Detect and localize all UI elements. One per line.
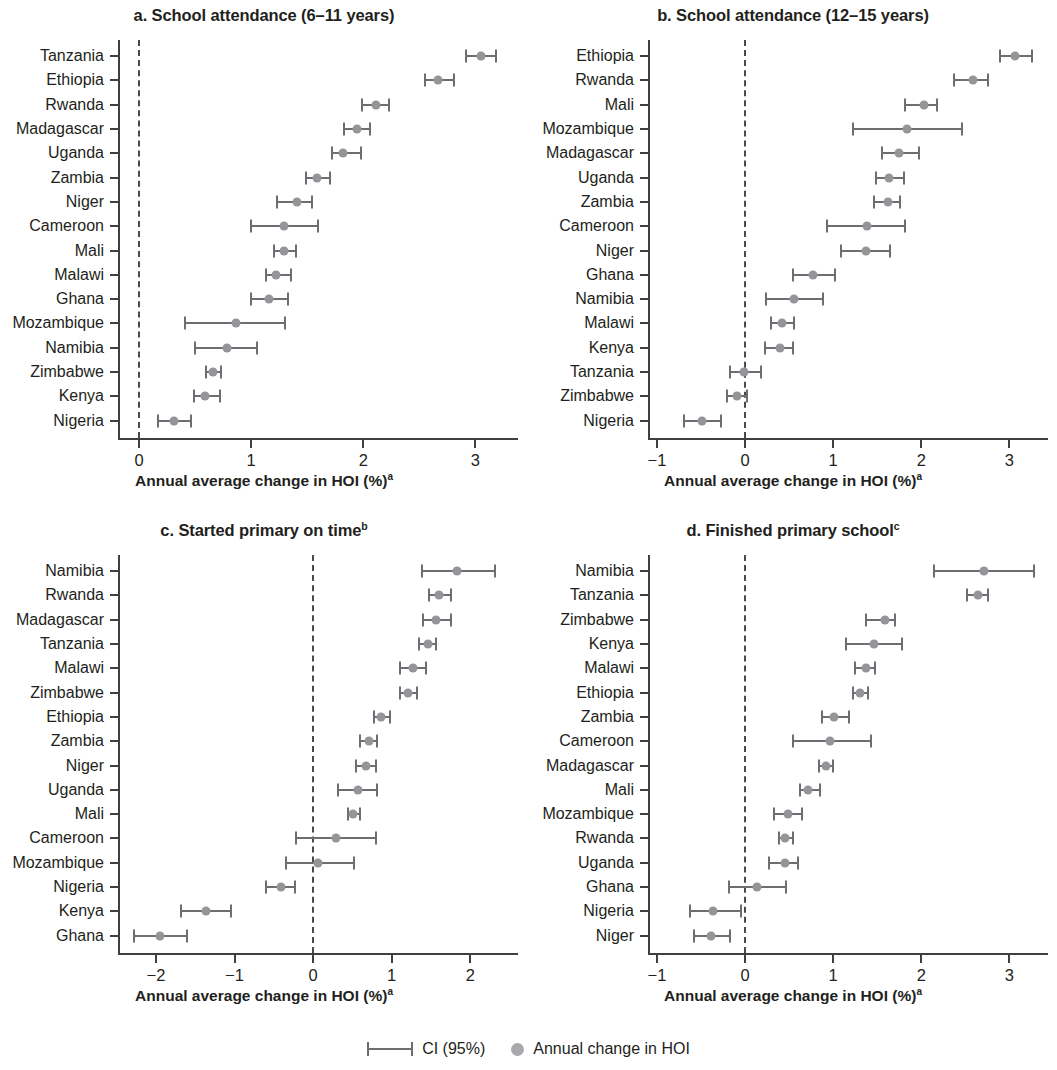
panel-b-plot: EthiopiaRwandaMaliMozambiqueMadagascarUg… [648, 40, 1048, 438]
panel-d-plot: NamibiaTanzaniaZimbabweKenyaMalawiEthiop… [648, 555, 1048, 953]
ci-cap-left [373, 710, 375, 723]
category-label: Malawi [0, 266, 104, 284]
data-point [740, 368, 749, 377]
y-tick-mark [110, 201, 118, 203]
ci-cap-right [376, 783, 378, 796]
data-point [313, 173, 322, 182]
ci-cap-left [904, 98, 906, 111]
y-tick-mark [640, 667, 648, 669]
ci-cap-right [792, 341, 794, 354]
ci-cap-right [901, 638, 903, 651]
x-tick-mark [656, 955, 658, 963]
x-tick-mark [138, 440, 140, 448]
ci-cap-right [359, 808, 361, 821]
ci-cap-left [764, 341, 766, 354]
ci-cap-right [190, 414, 192, 427]
category-label: Cameroon [434, 732, 634, 750]
ci-cap-left [689, 905, 691, 918]
category-label: Ghana [0, 927, 104, 945]
panel-b-axis-title: Annual average change in HOI (%)a [529, 472, 1057, 490]
data-point [222, 343, 231, 352]
ci-cap-right [311, 195, 313, 208]
category-label: Tanzania [0, 635, 104, 653]
category-label: Cameroon [434, 217, 634, 235]
legend-item-ci: CI (95%) [367, 1040, 485, 1058]
ci-cap-left [285, 856, 287, 869]
x-tick-label: 1 [829, 966, 838, 985]
ci-cap-right [867, 686, 869, 699]
category-label: Uganda [0, 144, 104, 162]
ci-cap-right [317, 220, 319, 233]
ci-cap-left [821, 710, 823, 723]
x-tick-mark [362, 440, 364, 448]
ci-cap-left [428, 589, 430, 602]
x-tick-mark [832, 955, 834, 963]
data-point [709, 907, 718, 916]
ci-cap-right [230, 905, 232, 918]
confidence-interval-icon [367, 1042, 413, 1056]
x-tick-label: 3 [1005, 451, 1014, 470]
y-tick-mark [110, 250, 118, 252]
category-label: Kenya [434, 339, 634, 357]
ci-cap-right [256, 341, 258, 354]
ci-cap-left [966, 589, 968, 602]
data-point [265, 295, 274, 304]
x-tick-mark [234, 955, 236, 963]
ci-cap-right [819, 783, 821, 796]
ci-cap-left [826, 220, 828, 233]
category-label: Kenya [434, 635, 634, 653]
x-tick-label: 3 [1005, 966, 1014, 985]
ci-cap-right [729, 929, 731, 942]
y-axis-line [118, 40, 120, 438]
y-tick-mark [110, 420, 118, 422]
data-point [861, 246, 870, 255]
category-label: Zambia [0, 732, 104, 750]
category-label: Uganda [434, 169, 634, 187]
y-tick-mark [640, 789, 648, 791]
category-label: Nigeria [434, 412, 634, 430]
x-axis-line [118, 438, 518, 440]
data-point [403, 688, 412, 697]
data-point [408, 664, 417, 673]
ci-cap-left [792, 268, 794, 281]
ci-cap-left [418, 638, 420, 651]
category-label: Rwanda [0, 96, 104, 114]
x-tick-label: 0 [740, 966, 749, 985]
x-tick-mark [474, 440, 476, 448]
y-tick-mark [640, 177, 648, 179]
x-axis-line [648, 438, 1048, 440]
x-axis-line [118, 953, 518, 955]
y-tick-mark [640, 765, 648, 767]
x-tick-label: −1 [648, 451, 667, 470]
category-label: Tanzania [434, 586, 634, 604]
data-point [777, 319, 786, 328]
data-point [348, 810, 357, 819]
category-label: Niger [434, 927, 634, 945]
x-tick-label: 0 [740, 451, 749, 470]
data-point [156, 931, 165, 940]
x-tick-mark [1008, 440, 1010, 448]
panel-b: b. School attendance (12–15 years) Ethio… [529, 0, 1057, 515]
ci-cap-left [355, 759, 357, 772]
ci-cap-left [881, 147, 883, 160]
ci-cap-right [220, 366, 222, 379]
category-label: Rwanda [434, 829, 634, 847]
ci-cap-left [273, 244, 275, 257]
ci-cap-left [184, 317, 186, 330]
x-tick-mark [832, 440, 834, 448]
ci-cap-left [295, 832, 297, 845]
y-tick-mark [110, 910, 118, 912]
ci-cap-right [740, 905, 742, 918]
category-label: Malawi [0, 659, 104, 677]
category-label: Zambia [434, 708, 634, 726]
ci-cap-left [865, 613, 867, 626]
category-label: Cameroon [0, 829, 104, 847]
panel-d-title: d. Finished primary schoolc [529, 521, 1057, 540]
category-label: Zambia [0, 169, 104, 187]
category-label: Niger [0, 193, 104, 211]
x-tick-label: −1 [225, 966, 244, 985]
ci-cap-left [337, 783, 339, 796]
x-tick-mark [920, 440, 922, 448]
ci-cap-left [845, 638, 847, 651]
ci-cap-right [369, 123, 371, 136]
